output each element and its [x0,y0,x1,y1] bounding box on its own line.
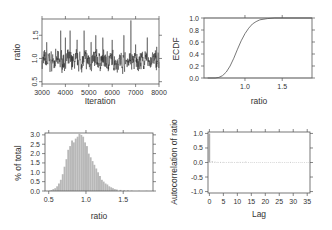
x-tick-label: 4000 [58,89,74,96]
histogram-bar [90,157,92,191]
histogram-bar [82,137,84,191]
x-tick-label: 35 [303,198,311,205]
trace-xlabel: Iteration [85,96,116,106]
histogram-bar [99,176,101,191]
y-tick-label: 1.0 [193,130,203,137]
histogram-bars [49,134,148,191]
x-tick-label: 30 [289,198,297,205]
histogram-bar [103,182,105,191]
histogram-bar [77,137,79,191]
x-tick-label: 6000 [104,89,120,96]
y-tick-label: 0.8 [189,27,199,34]
histogram-bar [88,154,90,191]
trace-ylabel: ratio [12,43,22,60]
histogram-bar [60,180,62,191]
y-tick-label: 0.5 [193,144,203,151]
histogram-bar [105,184,107,192]
ecdf-curve [208,18,312,78]
x-tick-label: 15 [247,198,255,205]
histogram-bar [79,134,81,191]
x-tick-label: 7000 [128,89,144,96]
y-tick-label: 1.0 [30,169,40,176]
x-tick-label: 1.5 [277,83,287,90]
y-tick-label: 0.0 [189,75,199,82]
trace-series [42,20,159,74]
y-tick-label: 0.6 [189,39,199,46]
histogram-bar [64,167,66,191]
diagnostics-svg: 3000400050006000700080000.51.01.5 Iterat… [0,0,332,230]
histogram-bar [106,185,108,192]
histogram-bar [108,186,110,191]
x-tick-label: 1.0 [240,83,250,90]
histogram-bar [80,135,82,191]
ecdf-series [204,18,312,78]
ecdf-xlabel: ratio [251,96,268,106]
histogram-bar [54,188,56,191]
x-tick-label: 1.0 [81,196,91,203]
histogram-bar [75,139,77,191]
histogram-bar [69,146,71,191]
y-tick-label: -0.5 [191,174,203,181]
x-tick-label: 20 [261,198,269,205]
y-tick-label: 3.0 [30,131,40,138]
x-tick-label: 1.5 [118,196,128,203]
histogram-xlabel: ratio [91,211,108,221]
y-tick-label: 0.5 [32,77,39,87]
mcmc-diagnostics-figure: 3000400050006000700080000.51.01.5 Iterat… [0,0,332,230]
y-tick-label: 0.0 [193,159,203,166]
trace-line [42,20,159,74]
ecdf-axes: 1.01.50.00.20.40.60.81.0 [189,15,315,91]
acf-xlabel: Lag [252,209,266,219]
x-tick-label: 0 [207,198,211,205]
ecdf-ylabel: ECDF [171,37,181,60]
histogram-bar [112,188,114,191]
y-tick-label: 0.5 [30,178,40,185]
trace-plot-panel: 3000400050006000700080000.51.01.5 Iterat… [12,16,167,106]
y-tick-label: 0.2 [189,63,199,70]
histogram-bar [62,174,64,191]
histogram-bar [93,165,95,191]
x-tick-label: 0.5 [44,196,54,203]
histogram-bar [71,141,73,192]
histogram-bar [86,146,88,191]
y-tick-label: 0.4 [189,51,199,58]
ecdf-plot-frame [204,18,312,78]
histogram-bar [58,184,60,192]
histogram-panel: 0.51.01.50.00.51.01.52.02.53.0 ratio % o… [13,130,156,221]
y-tick-label: 1.0 [189,15,199,22]
histogram-bar [92,161,94,191]
ecdf-plot-panel: 1.01.50.00.20.40.60.81.0 ratio ECDF [171,15,315,107]
y-tick-label: 1.5 [32,30,39,40]
y-tick-label: 2.5 [30,141,40,148]
histogram-bar [95,169,97,192]
x-tick-label: 3000 [34,89,50,96]
acf-ylabel: Autocorrelation of ratio [169,119,179,205]
x-tick-label: 10 [233,198,241,205]
x-tick-label: 8000 [151,89,167,96]
y-tick-label: -1.0 [191,188,203,195]
histogram-bar [73,142,75,191]
histogram-ylabel: % of total [13,145,23,181]
histogram-bar [110,187,112,191]
y-tick-label: 1.0 [32,53,39,63]
y-tick-label: 1.5 [30,159,40,166]
histogram-bar [67,150,69,191]
acf-plot-panel: 05101520253035-1.0-0.50.00.51.0 Lag Auto… [169,119,313,219]
acf-bars [208,133,310,162]
histogram-bar [66,159,68,191]
histogram-bar [56,186,58,191]
x-tick-label: 5 [221,198,225,205]
x-tick-label: 5000 [81,89,97,96]
trace-plot-frame [42,19,159,84]
histogram-bar [84,142,86,191]
histogram-bar [97,172,99,191]
y-tick-label: 2.0 [30,150,40,157]
x-tick-label: 25 [275,198,283,205]
histogram-bar [101,180,103,191]
y-tick-label: 0.0 [30,188,40,195]
